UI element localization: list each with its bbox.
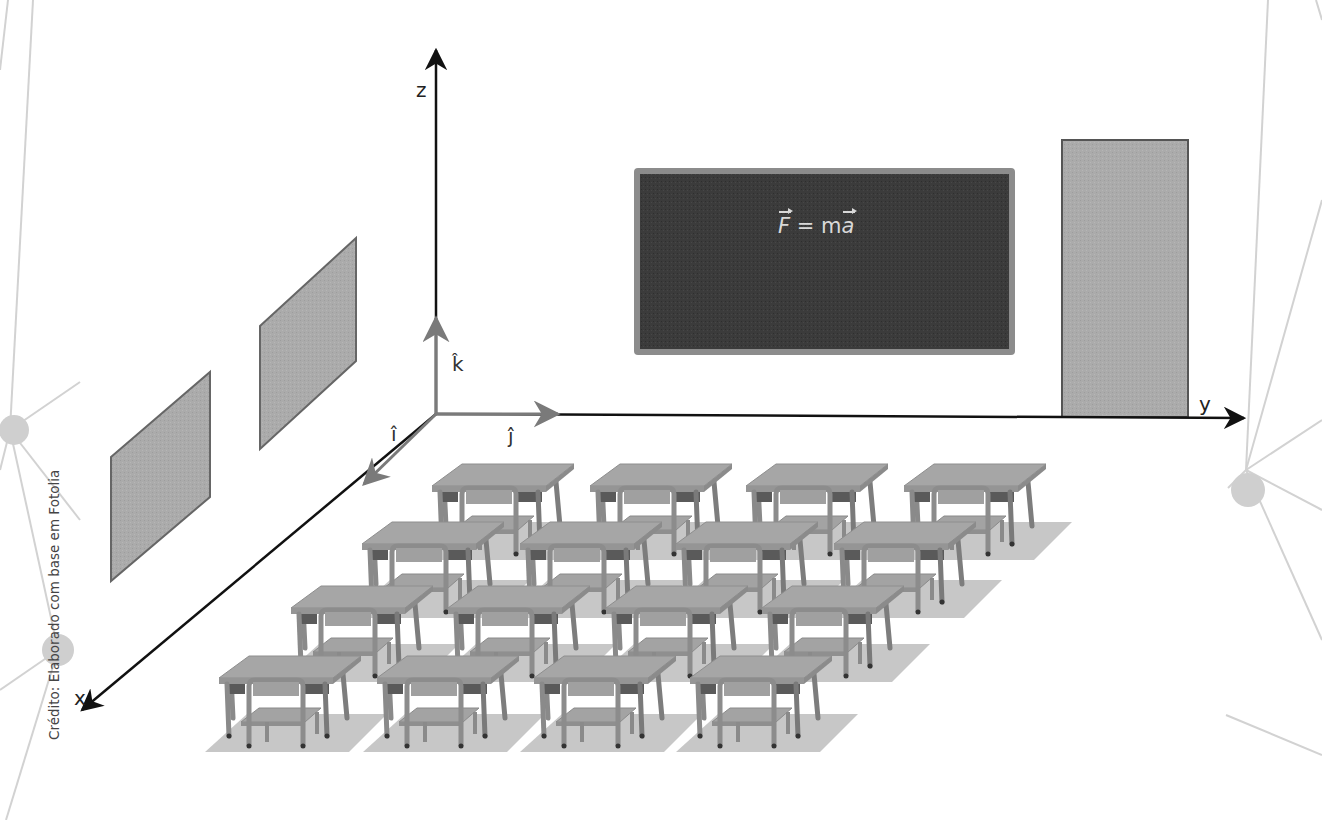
formula-equals-m: = m <box>790 214 841 238</box>
window-back <box>260 238 356 449</box>
j-hat-label: ĵ <box>508 426 514 446</box>
x-axis-label: x <box>74 688 86 708</box>
classroom-diagram: F = ma z y x k̂ ĵ î Crédito: Elaborado c… <box>0 0 1322 820</box>
i-unit-vector <box>364 414 436 484</box>
force-vector-symbol: F <box>778 214 790 238</box>
network-node <box>1231 473 1265 507</box>
i-hat-label: î <box>391 424 397 444</box>
scene-graphic <box>0 0 1322 820</box>
image-credit: Crédito: Elaborado com base em Fotolia <box>46 470 62 740</box>
door <box>1062 140 1188 417</box>
acceleration-vector-symbol: a <box>842 214 855 238</box>
z-axis-label: z <box>416 80 427 100</box>
k-hat-label: k̂ <box>452 354 464 374</box>
network-node <box>0 415 29 445</box>
blackboard-surface <box>640 174 1009 349</box>
desk-grid <box>205 464 1072 752</box>
window-front <box>111 372 210 581</box>
y-axis-label: y <box>1199 394 1211 414</box>
blackboard-formula: F = ma <box>778 214 854 238</box>
